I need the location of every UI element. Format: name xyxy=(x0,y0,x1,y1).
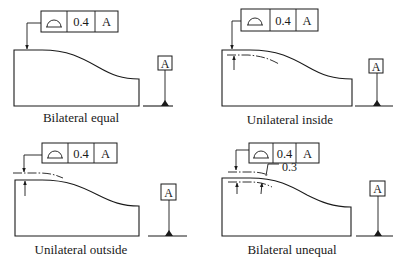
datum-feature-symbol: A xyxy=(148,184,187,236)
datum-triangle-icon xyxy=(373,100,381,106)
tolerance-value: 0.4 xyxy=(73,147,89,161)
caption: Bilateral equal xyxy=(43,110,120,125)
datum-feature-symbol: A xyxy=(355,59,393,106)
leader-arrow xyxy=(236,150,249,170)
datum-feature-symbol: A xyxy=(143,56,173,106)
part-outline xyxy=(15,180,139,236)
leader-arrow xyxy=(27,23,41,49)
panel-bilateral-unequal: 0.4 A 0.3 A Bilateral unequal xyxy=(222,143,393,257)
datum-reference: A xyxy=(303,147,312,161)
tolerance-zone-outer-line xyxy=(228,172,268,175)
datum-feature-symbol: A xyxy=(356,181,393,236)
datum-letter: A xyxy=(372,60,381,74)
datum-triangle-icon xyxy=(374,230,382,236)
feature-control-frame: 0.4 A xyxy=(42,143,117,163)
profile-tolerance-diagram: 0.4 A A Bilateral equal 0.4 A xyxy=(0,0,402,264)
tolerance-zone-outer-line xyxy=(13,173,63,178)
datum-reference: A xyxy=(302,14,311,28)
part-outline xyxy=(222,178,351,236)
feature-control-frame: 0.4 A xyxy=(41,11,118,32)
tolerance-zone-inner-line xyxy=(227,55,279,64)
tolerance-value: 0.4 xyxy=(73,15,89,29)
panel-unilateral-inside: 0.4 A A Unilateral inside xyxy=(222,9,393,127)
offset-dimension: 0.3 xyxy=(282,160,297,174)
datum-letter: A xyxy=(164,186,173,200)
tolerance-value: 0.4 xyxy=(275,14,291,28)
caption: Unilateral outside xyxy=(35,242,128,257)
leader-arrow xyxy=(24,155,42,172)
tolerance-value: 0.4 xyxy=(277,147,293,161)
leader-arrow xyxy=(232,21,241,49)
panel-bilateral-equal: 0.4 A A Bilateral equal xyxy=(14,11,173,125)
datum-reference: A xyxy=(102,15,111,29)
caption: Bilateral unequal xyxy=(247,242,337,257)
caption: Unilateral inside xyxy=(247,112,334,127)
datum-triangle-icon xyxy=(165,230,173,236)
tolerance-zone-inner-line xyxy=(228,182,272,187)
zone-arrow xyxy=(261,183,262,194)
feature-control-frame: 0.4 A xyxy=(241,9,318,31)
part-outline xyxy=(222,50,352,106)
offset-leader xyxy=(266,164,279,176)
datum-letter: A xyxy=(161,57,170,71)
panel-unilateral-outside: 0.4 A A Unilateral outside xyxy=(13,143,187,257)
part-outline xyxy=(14,50,139,106)
datum-reference: A xyxy=(101,147,110,161)
datum-triangle-icon xyxy=(161,100,169,106)
datum-letter: A xyxy=(373,182,382,196)
